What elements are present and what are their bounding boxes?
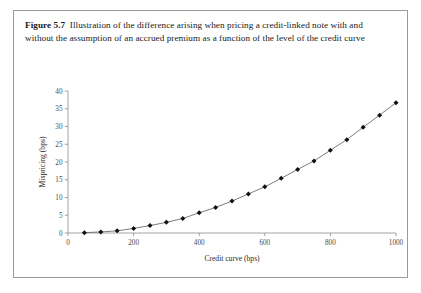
- series-line-mispricing: [84, 103, 396, 233]
- data-point-marker: [82, 230, 87, 235]
- series-markers-mispricing: [82, 100, 399, 235]
- data-point-marker: [279, 176, 284, 181]
- y-tick-label: 5: [59, 212, 63, 220]
- y-tick-label: 20: [55, 159, 63, 167]
- x-tick-label: 400: [194, 239, 205, 247]
- data-point-marker: [98, 229, 103, 234]
- data-point-marker: [180, 216, 185, 221]
- data-point-marker: [164, 220, 169, 225]
- y-axis-tick-labels: 0510152025303540: [55, 88, 63, 238]
- data-point-marker: [312, 158, 317, 163]
- chart-axes: [65, 91, 396, 236]
- data-point-marker: [197, 210, 202, 215]
- data-point-marker: [262, 184, 267, 189]
- data-point-marker: [148, 223, 153, 228]
- y-tick-label: 35: [55, 105, 63, 113]
- series-polyline: [84, 103, 396, 233]
- x-tick-label: 0: [66, 239, 70, 247]
- y-tick-label: 25: [55, 141, 63, 149]
- x-tick-label: 600: [259, 239, 270, 247]
- x-tick-label: 800: [325, 239, 336, 247]
- y-tick-label: 10: [55, 194, 63, 202]
- chart-plot-area: 0510152025303540 02004006008001000 Mispr…: [14, 11, 409, 279]
- data-point-marker: [295, 167, 300, 172]
- figure-container: Figure 5.7 Illustration of the differenc…: [13, 10, 408, 278]
- y-tick-label: 40: [55, 88, 63, 96]
- data-point-marker: [213, 205, 218, 210]
- x-tick-label: 200: [128, 239, 139, 247]
- x-axis-tick-labels: 02004006008001000: [66, 239, 403, 247]
- x-axis-title: Credit curve (bps): [204, 254, 260, 263]
- data-point-marker: [230, 199, 235, 204]
- mispricing-line-chart: 0510152025303540 02004006008001000 Mispr…: [14, 11, 409, 279]
- data-point-marker: [328, 148, 333, 153]
- data-point-marker: [131, 226, 136, 231]
- y-tick-label: 15: [55, 176, 63, 184]
- x-tick-label: 1000: [389, 239, 404, 247]
- data-point-marker: [246, 191, 251, 196]
- y-tick-label: 30: [55, 123, 63, 131]
- y-axis-title: Mispricing (bps): [38, 136, 47, 187]
- y-tick-label: 0: [59, 230, 63, 238]
